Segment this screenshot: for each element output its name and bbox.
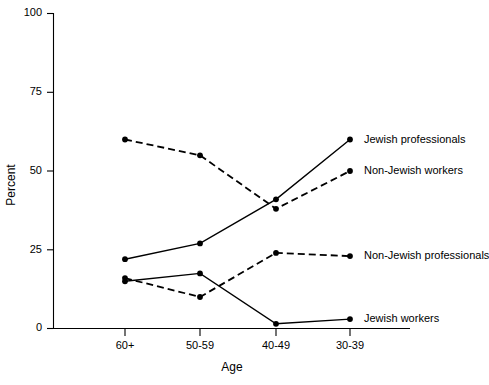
x-tick-label-30-39: 30-39 — [320, 340, 380, 351]
x-axis-ticks — [125, 329, 350, 336]
series-non-jewish-workers — [122, 137, 353, 212]
series-line-non-jewish-professionals — [125, 253, 350, 297]
series-label-jewish-workers: Jewish workers — [364, 313, 439, 324]
series-line-jewish-professionals — [125, 140, 350, 260]
series-label-non-jewish-workers: Non-Jewish workers — [364, 165, 463, 176]
y-axis-title: Percent — [5, 155, 17, 215]
x-axis-title: Age — [202, 361, 262, 373]
series-jewish-workers — [122, 271, 353, 327]
x-tick-label-50-59: 50-59 — [170, 340, 230, 351]
series-line-jewish-workers — [125, 273, 350, 323]
y-tick-label-100: 100 — [14, 7, 42, 18]
y-tick-label-75: 75 — [14, 86, 42, 97]
y-tick-label-0: 0 — [14, 322, 42, 333]
y-axis-ticks — [47, 14, 53, 329]
x-tick-label-60-plus: 60+ — [95, 340, 155, 351]
series-non-jewish-professionals — [122, 250, 353, 300]
series-label-non-jewish-professionals: Non-Jewish professionals — [364, 250, 489, 261]
y-tick-label-50: 50 — [14, 165, 42, 176]
series-label-jewish-professionals: Jewish professionals — [364, 134, 466, 145]
series-jewish-professionals — [122, 137, 353, 263]
y-tick-label-25: 25 — [14, 244, 42, 255]
x-tick-label-40-49: 40-49 — [246, 340, 306, 351]
series-line-non-jewish-workers — [125, 140, 350, 209]
axis-lines — [53, 13, 410, 329]
